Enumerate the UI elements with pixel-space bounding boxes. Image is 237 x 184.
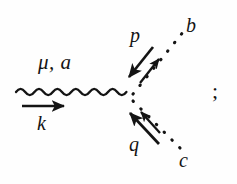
gluon-wavy-line: [16, 89, 126, 95]
feynman-diagram: μ, a k p b q c ;: [0, 0, 237, 184]
flow-arrow-b: [140, 59, 159, 83]
label-particle-c: c: [179, 150, 188, 170]
label-momentum-q: q: [129, 134, 139, 154]
label-momentum-k: k: [37, 113, 46, 133]
flow-arrow-c: [141, 112, 160, 133]
diagram-canvas: [0, 0, 237, 184]
trailing-semicolon: ;: [212, 80, 218, 102]
label-lorentz-color-index: μ, a: [38, 52, 72, 73]
label-momentum-p: p: [130, 25, 140, 45]
label-particle-b: b: [186, 15, 196, 35]
